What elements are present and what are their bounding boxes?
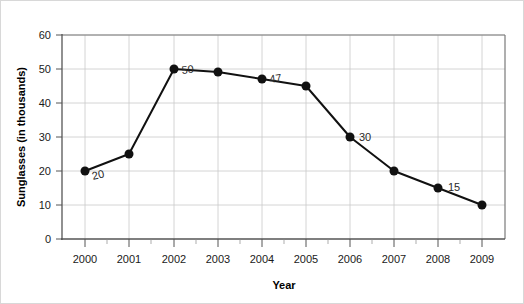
data-point-2008[interactable] [434, 184, 443, 193]
data-point-2007[interactable] [390, 167, 399, 176]
data-label-2008: 15 [448, 181, 460, 193]
x-tick-label: 2005 [294, 253, 318, 265]
x-axis-ticks [85, 239, 482, 247]
y-tick-label: 20 [39, 165, 51, 177]
x-tick-label: 2001 [117, 253, 141, 265]
x-tick-label: 2003 [206, 253, 230, 265]
data-point-2006[interactable] [346, 133, 355, 142]
data-point-2000[interactable] [81, 167, 90, 176]
y-axis-ticks [56, 35, 62, 239]
x-tick-label: 2002 [162, 253, 186, 265]
line-chart: 60 50 40 30 20 10 0 2000 2001 2002 2003 … [1, 1, 524, 304]
data-point-2009[interactable] [478, 201, 487, 210]
x-tick-label: 2004 [250, 253, 274, 265]
x-axis-title: Year [272, 279, 296, 291]
y-axis-tick-labels: 60 50 40 30 20 10 0 [39, 29, 51, 245]
data-point-2003[interactable] [214, 68, 223, 77]
y-tick-label: 0 [45, 233, 51, 245]
x-tick-label: 2009 [470, 253, 494, 265]
y-tick-label: 60 [39, 29, 51, 41]
chart-screenshot: 60 50 40 30 20 10 0 2000 2001 2002 2003 … [0, 0, 524, 304]
x-tick-label: 2000 [73, 253, 97, 265]
y-tick-label: 40 [39, 97, 51, 109]
y-axis-title: Sunglasses (in thousands) [15, 67, 27, 207]
data-label-2004: 47 [269, 71, 283, 85]
x-tick-label: 2006 [338, 253, 362, 265]
data-point-2001[interactable] [125, 150, 134, 159]
x-tick-label: 2007 [382, 253, 406, 265]
y-tick-label: 50 [39, 63, 51, 75]
x-tick-label: 2008 [426, 253, 450, 265]
data-point-2002[interactable] [170, 65, 179, 74]
data-point-2005[interactable] [302, 82, 311, 91]
x-axis-tick-labels: 2000 2001 2002 2003 2004 2005 2006 2007 … [73, 253, 494, 265]
data-label-2002: 50 [181, 63, 194, 76]
data-label-2006: 30 [359, 131, 371, 143]
y-tick-label: 30 [39, 131, 51, 143]
x-axis-minor-ticks [107, 239, 460, 244]
data-point-2004[interactable] [258, 75, 267, 84]
y-tick-label: 10 [39, 199, 51, 211]
